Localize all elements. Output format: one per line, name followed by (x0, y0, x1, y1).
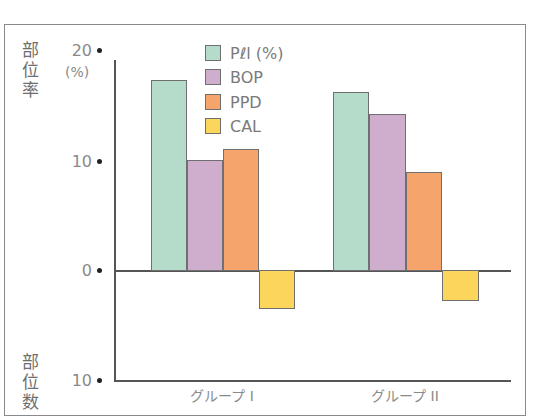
legend-swatch-icon (205, 45, 221, 61)
x-category-group1: グループ I (162, 385, 282, 405)
bar-group1-cal (259, 270, 295, 309)
y-axis-label-bottom: 部 位 数 (20, 352, 40, 412)
tick-dot-icon (97, 48, 102, 53)
x-axis-line (114, 380, 511, 382)
legend-swatch-icon (205, 118, 221, 134)
y-tick-20: 20 (52, 41, 92, 60)
legend-swatch-icon (205, 69, 221, 85)
bar-group2-ppd (406, 172, 442, 271)
label-char: 部 (20, 352, 40, 372)
tick-dot-icon (97, 268, 102, 273)
legend-label: BOP (230, 68, 263, 87)
y-axis-label-top: 部 位 率 (20, 40, 40, 100)
x-category-group2: グループ II (345, 385, 465, 405)
bar-group1-ppd (223, 149, 259, 271)
bar-group2-cal (442, 270, 479, 301)
y-tick-10: 10 (52, 152, 92, 171)
legend-item-ppd: PPD (205, 93, 262, 111)
bar-group2-bop (369, 114, 406, 271)
y-tick-0: 0 (52, 261, 92, 280)
bar-group1-bop (187, 160, 223, 271)
label-char: 位 (20, 60, 40, 80)
legend-label: CAL (230, 117, 261, 136)
y-axis-line (114, 60, 116, 381)
legend-item-cal: CAL (205, 117, 261, 135)
legend-item-pli: Pℓl (%) (205, 44, 283, 62)
y-tick-bottom-10: 10 (52, 371, 92, 390)
bar-group2-pli (333, 92, 369, 271)
legend-label: PPD (230, 93, 262, 112)
label-char: 数 (20, 392, 40, 412)
chart-frame (4, 24, 526, 416)
label-char: 位 (20, 372, 40, 392)
legend-swatch-icon (205, 94, 221, 110)
label-char: 率 (20, 80, 40, 100)
y-unit-label: (%) (65, 64, 89, 80)
tick-dot-icon (97, 378, 102, 383)
bar-group1-pli (151, 80, 187, 271)
label-char: 部 (20, 40, 40, 60)
tick-dot-icon (97, 159, 102, 164)
legend-label: Pℓl (%) (230, 44, 283, 63)
legend-item-bop: BOP (205, 68, 263, 86)
